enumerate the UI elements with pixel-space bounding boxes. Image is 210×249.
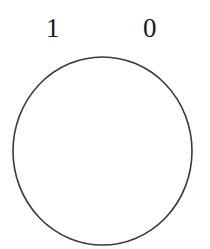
circle-outline [13,57,192,245]
diagram-canvas: 1 0 [0,0,210,249]
circle-shape [0,0,210,249]
